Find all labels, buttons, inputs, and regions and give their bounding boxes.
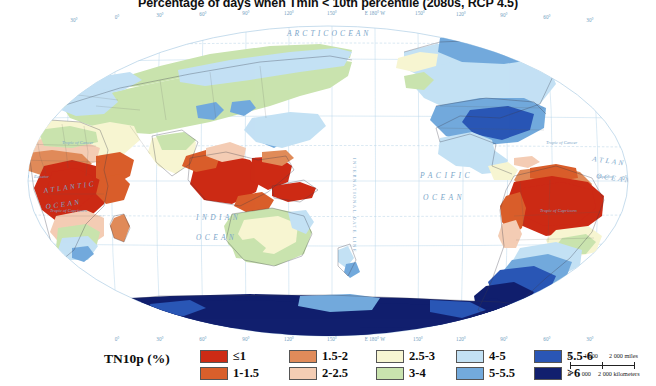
legend-entry: ≤1 (200, 349, 246, 364)
lat-label: 60° (606, 294, 614, 300)
lon-label: 90° (242, 10, 249, 16)
lon-label: 120° (456, 11, 466, 17)
legend-entry-label: ≤1 (233, 349, 246, 364)
lon-label: 60° (199, 336, 206, 342)
lon-label: 150° (327, 336, 337, 342)
legend-entry-label: 5-5.5 (489, 366, 515, 381)
legend-entry-label: 3-4 (409, 366, 426, 381)
arctic-circle-label: Arctic Circle (91, 39, 116, 44)
lat-label: 0° (622, 175, 627, 181)
legend-entry: 4-5 (456, 349, 506, 364)
lat-label: 60° (40, 294, 48, 300)
lon-label: 90° (500, 336, 507, 342)
lon-label: 0° (115, 14, 120, 20)
longitude-labels-bottom: 0° 30° 60° 90° 120° 150° E 180° W 150° 1… (115, 336, 594, 342)
scale-bar-tick (570, 362, 571, 369)
lon-label: 60° (543, 14, 550, 20)
climate-region-antarctica (28, 294, 620, 342)
lon-label: E 180° W (365, 336, 386, 342)
scale-bar-tick (602, 362, 603, 369)
scale-bar-miles-labels: 0 1 000 2 000 miles (568, 352, 656, 361)
lat-label: 30° (27, 112, 35, 118)
lon-label: 150° (327, 10, 337, 16)
legend-entry-label: 2-2.5 (322, 366, 348, 381)
antarctic-circle-label: Antarctic Circle (109, 310, 139, 315)
lon-label: E 180° W (365, 10, 386, 16)
legend-swatch (456, 350, 484, 363)
lat-label: 30° (619, 112, 627, 118)
longitude-labels-top: 30° 0° 30° 60° 90° 120° 150° E 180° W 15… (70, 10, 593, 23)
legend-swatch (289, 367, 317, 380)
scale-miles-mid: 1 000 (584, 352, 598, 359)
lon-label: 120° (456, 336, 466, 342)
legend-title: TN10p (%) (104, 351, 170, 367)
world-map-figure: A R C T I C O C E A N A T L A N T I C O … (0, 10, 656, 342)
legend-entry-label: 4-5 (489, 349, 506, 364)
lon-label: 90° (500, 12, 507, 18)
lon-label: 150° (415, 10, 425, 16)
scale-bar-tick (634, 362, 635, 369)
legend-swatch (376, 367, 404, 380)
antarctic-circle-label: Antarctic Circle (519, 312, 549, 317)
scale-km-mid: 1 000 (577, 370, 591, 377)
lat-label: 60° (606, 56, 614, 62)
ocean-label: P A C I F I C (419, 171, 471, 180)
lat-label: 60° (40, 56, 48, 62)
legend: TN10p (%) ≤1 1-1.5 1.5-2 2-2.5 2.5-3 3-4 (104, 346, 524, 384)
lon-label: 60° (199, 11, 206, 17)
legend-entry: 1-1.5 (200, 366, 259, 381)
page-title: Percentage of days when Tmin < 10th perc… (0, 0, 656, 10)
legend-entry: 2.5-3 (376, 349, 435, 364)
lon-label: 90° (242, 336, 249, 342)
tropic-of-capricorn-label: Tropic of Capricorn (540, 208, 578, 213)
legend-entry-label: 2.5-3 (409, 349, 435, 364)
legend-swatch (534, 367, 562, 380)
lat-label: 30° (27, 238, 35, 244)
tropic-of-cancer-label: Tropic of Cancer (546, 140, 577, 145)
lon-label: 30° (156, 336, 163, 342)
legend-entry: 2-2.5 (289, 366, 348, 381)
legend-entry: 1.5-2 (289, 349, 348, 364)
scale-miles-zero: 0 (568, 352, 571, 359)
equator-label: Equator (597, 174, 613, 179)
legend-swatch (200, 350, 228, 363)
lon-label: 60° (543, 336, 550, 342)
lon-label: 120° (284, 10, 294, 16)
lon-label: 30° (586, 17, 593, 23)
ocean-label: O C E A N (423, 193, 463, 202)
ocean-label: O C E A N (196, 233, 235, 242)
legend-entry-label: 1.5-2 (322, 349, 348, 364)
legend-swatch (534, 350, 562, 363)
legend-entry-label: 1-1.5 (233, 366, 259, 381)
date-line-label: INTERNATIONAL DATE LINE (352, 158, 357, 253)
scale-bar-ruler (568, 362, 656, 369)
legend-swatch (200, 367, 228, 380)
legend-swatch (289, 350, 317, 363)
scale-miles-end: 2 000 miles (609, 352, 638, 359)
legend-entry: 5-5.5 (456, 366, 515, 381)
legend-swatch (376, 350, 404, 363)
scale-km-zero: 0 (568, 370, 571, 377)
equator-label: Equator (33, 174, 49, 179)
lon-label: 30° (156, 12, 163, 18)
lat-label: 30° (619, 238, 627, 244)
tropic-of-cancer-label: Tropic of Cancer (62, 140, 93, 145)
lon-label: 150° (413, 336, 423, 342)
legend-entry: 3-4 (376, 366, 426, 381)
ocean-label: A R C T I C O C E A N (286, 29, 369, 38)
lon-label: 0° (115, 336, 120, 342)
ocean-label: I N D I A N (195, 213, 239, 222)
lon-label: 30° (70, 17, 77, 23)
legend-swatch (456, 367, 484, 380)
scale-km-end: 2 000 kilometers (598, 370, 640, 377)
tropic-of-capricorn-label: Tropic of Capricorn (50, 208, 88, 213)
lon-label: 120° (284, 336, 294, 342)
scale-bar-km-labels: 0 1 000 2 000 kilometers (568, 370, 656, 379)
scale-bar: 0 1 000 2 000 miles 0 1 000 2 000 kilome… (568, 352, 656, 382)
lon-label: 30° (586, 336, 593, 342)
